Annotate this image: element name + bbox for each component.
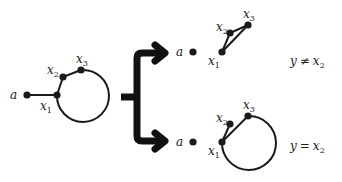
node-x1 [218, 138, 225, 145]
brace-vertical [137, 53, 160, 141]
label-x2: x2 [216, 111, 228, 127]
label-a: a [176, 45, 183, 59]
node-x2 [59, 73, 66, 80]
graph-transformation-diagram: a x1 x2 x3 a x1 x2 x3 y≠x2 a x1 x2 x3 y=… [0, 0, 342, 182]
node-x1 [218, 48, 225, 55]
label-x2: x2 [216, 20, 228, 36]
label-x3: x3 [243, 98, 255, 114]
condition-bottom: y=x2 [289, 139, 325, 155]
label-x1: x1 [208, 54, 220, 70]
left-graph [27, 70, 109, 122]
label-a: a [176, 135, 183, 149]
label-x2: x2 [47, 63, 59, 79]
label-x1: x1 [208, 144, 220, 160]
label-x3: x3 [243, 7, 255, 23]
label-x1: x1 [40, 99, 52, 115]
node-a [23, 91, 30, 98]
node-a [189, 138, 196, 145]
branch-brace [121, 45, 165, 149]
label-a: a [10, 88, 17, 102]
node-x1 [53, 91, 60, 98]
label-x3: x3 [76, 52, 88, 68]
condition-top: y≠x2 [289, 54, 325, 70]
node-a [189, 48, 196, 55]
